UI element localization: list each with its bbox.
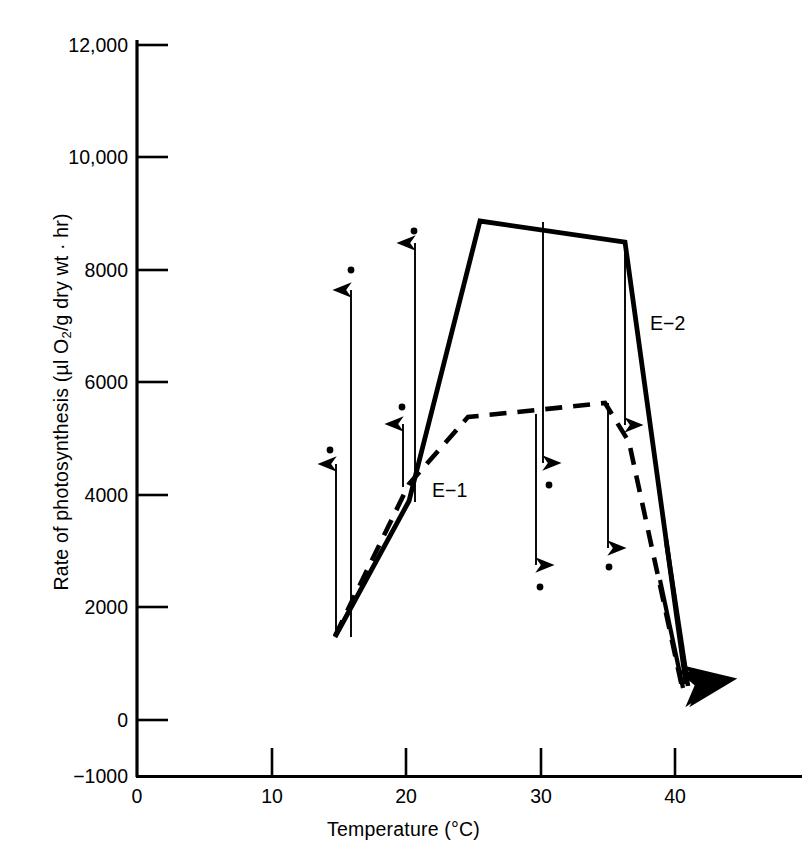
measurement-dots: [327, 228, 613, 591]
y-axis-label-pre: Rate of photosynthesis (µl O: [50, 339, 72, 591]
y-tick-label: 8000: [85, 259, 129, 281]
y-axis-ticks: [137, 45, 168, 720]
x-tick-label: 10: [261, 785, 283, 807]
data-dot: [327, 447, 334, 454]
y-axis-label-post: /g dry wt · hr): [50, 213, 72, 331]
data-dot: [606, 564, 613, 571]
y-axis-label: Rate of photosynthesis (µl O2/g dry wt ·…: [50, 22, 74, 782]
chart-canvas: 12,000 10,000 8000 6000 4000 2000 0 −100…: [0, 0, 807, 862]
y-tick-label: 2000: [85, 596, 129, 618]
figure-root: Rate of photosynthesis (µl O2/g dry wt ·…: [0, 0, 807, 862]
y-tick-label: −1000: [73, 765, 128, 787]
series-label-e1: E−1: [432, 479, 467, 501]
data-dot: [399, 404, 406, 411]
y-tick-label: 12,000: [68, 34, 128, 56]
x-tick-label: 20: [395, 785, 417, 807]
x-tick-label: 30: [530, 785, 552, 807]
y-axis-label-subscript: 2: [59, 331, 74, 338]
x-axis-label: Temperature (°C): [0, 818, 807, 841]
y-tick-label: 10,000: [68, 146, 128, 168]
transfer-arrows: [336, 222, 625, 637]
data-dot: [537, 584, 544, 591]
x-tick-label: 40: [664, 785, 686, 807]
data-dot: [546, 482, 553, 489]
x-tick-label: 0: [132, 785, 143, 807]
series-label-e2: E−2: [650, 312, 685, 334]
y-tick-label: 6000: [85, 371, 129, 393]
data-dot: [348, 267, 355, 274]
data-dot: [411, 228, 418, 235]
y-axis-tick-labels: 12,000 10,000 8000 6000 4000 2000 0 −100…: [68, 34, 128, 787]
y-tick-label: 4000: [85, 484, 129, 506]
x-axis-tick-labels: 0 10 20 30 40: [132, 785, 686, 807]
y-tick-label: 0: [117, 709, 128, 731]
x-axis-ticks: [272, 748, 675, 776]
